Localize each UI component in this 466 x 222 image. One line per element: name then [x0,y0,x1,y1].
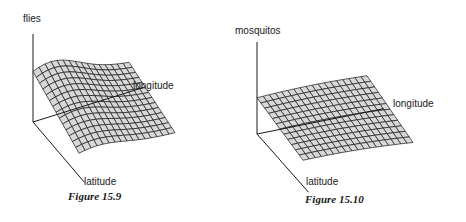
x-axis-label: longitude [133,80,174,91]
x-axis-label: longitude [393,98,434,109]
surface-mesh [33,60,175,153]
figure-caption: Figure 15.10 [305,193,364,205]
flies-surface-plot [0,0,233,222]
y-axis-label: latitude [306,176,338,187]
z-axis-label: mosquitos [235,25,281,36]
figure-caption: Figure 15.9 [68,190,121,202]
z-axis-label: flies [23,13,41,24]
figure-15-10: mosquitos longitude latitude Figure 15.1… [233,0,466,222]
y-axis-label: latitude [84,176,116,187]
figure-15-9: flies longitude latitude Figure 15.9 [0,0,233,222]
